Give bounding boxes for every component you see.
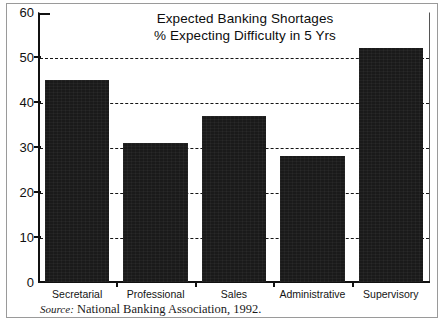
x-tick-label-secretarial: Secretarial [38, 288, 116, 301]
x-tick-label-administrative: Administrative [273, 288, 351, 301]
y-tick-mark-10 [34, 236, 41, 238]
y-tick-label-10: 10 [4, 231, 34, 244]
x-tick-mark-1 [195, 281, 197, 287]
x-tick-mark-2 [273, 281, 275, 287]
y-axis: 0102030405060 [0, 12, 34, 282]
y-tick-label-20: 20 [4, 186, 34, 199]
source-citation: National Banking Association, 1992. [77, 302, 261, 316]
bar-series [38, 12, 430, 282]
y-tick-label-40: 40 [4, 96, 34, 109]
y-tick-label-30: 30 [4, 141, 34, 154]
bar-professional [123, 143, 187, 283]
y-tick-label-0: 0 [4, 276, 34, 289]
x-tick-label-sales: Sales [195, 288, 273, 301]
y-tick-mark-50 [34, 56, 41, 58]
y-tick-mark-30 [34, 146, 41, 148]
x-tick-mark-3 [352, 281, 354, 287]
y-tick-mark-20 [34, 191, 41, 193]
bar-administrative [280, 156, 344, 282]
y-tick-label-60: 60 [4, 6, 34, 19]
source-note: Source: National Banking Association, 19… [40, 302, 261, 316]
x-tick-label-supervisory: Supervisory [352, 288, 430, 301]
y-tick-mark-40 [34, 101, 41, 103]
bar-supervisory [359, 48, 423, 282]
x-tick-label-professional: Professional [116, 288, 194, 301]
x-tick-mark-0 [116, 281, 118, 287]
source-label: Source: [40, 303, 74, 315]
bar-secretarial [45, 80, 109, 283]
y-tick-label-50: 50 [4, 51, 34, 64]
bar-sales [202, 116, 266, 283]
chart-figure: Expected Banking Shortages % Expecting D… [0, 0, 445, 326]
